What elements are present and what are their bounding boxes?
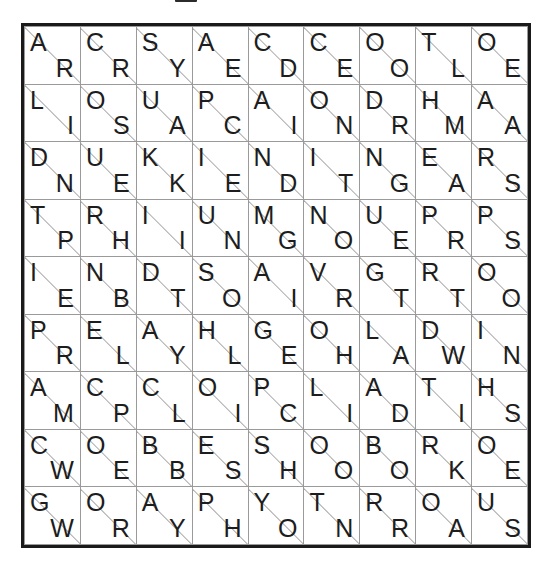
grid-cell[interactable]: AY bbox=[136, 314, 192, 372]
grid-cell[interactable]: PR bbox=[416, 199, 472, 257]
grid-cell[interactable]: YO bbox=[248, 487, 304, 545]
grid-cell[interactable]: OS bbox=[80, 84, 136, 142]
grid-cell[interactable]: HL bbox=[192, 314, 248, 372]
grid-cell[interactable]: EA bbox=[416, 142, 472, 200]
grid-cell[interactable]: OR bbox=[80, 487, 136, 545]
grid-cell[interactable]: NO bbox=[304, 199, 360, 257]
cell-upper-letter: T bbox=[421, 30, 436, 55]
cell-upper-letter: M bbox=[254, 203, 275, 228]
grid-cell[interactable]: IT bbox=[304, 142, 360, 200]
grid-cell[interactable]: II bbox=[136, 199, 192, 257]
grid-cell[interactable]: TN bbox=[304, 487, 360, 545]
grid-cell[interactable]: AR bbox=[25, 27, 81, 85]
grid-cell[interactable]: AY bbox=[136, 487, 192, 545]
grid-cell[interactable]: NG bbox=[360, 142, 416, 200]
grid-cell[interactable]: HS bbox=[472, 372, 528, 430]
grid-cell[interactable]: ES bbox=[192, 429, 248, 487]
cell-inner: TL bbox=[416, 27, 471, 84]
grid-cell[interactable]: DT bbox=[136, 257, 192, 315]
grid-cell[interactable]: PS bbox=[472, 199, 528, 257]
grid-cell[interactable]: RK bbox=[416, 429, 472, 487]
grid-cell[interactable]: SY bbox=[136, 27, 192, 85]
grid-cell[interactable]: OA bbox=[416, 487, 472, 545]
cell-inner: US bbox=[472, 487, 527, 544]
grid-cell[interactable]: RS bbox=[472, 142, 528, 200]
grid-cell[interactable]: ON bbox=[304, 84, 360, 142]
grid-cell[interactable]: UE bbox=[80, 142, 136, 200]
grid-cell[interactable]: MG bbox=[248, 199, 304, 257]
grid-cell[interactable]: BO bbox=[360, 429, 416, 487]
grid-cell[interactable]: OE bbox=[472, 429, 528, 487]
grid-cell[interactable]: AI bbox=[248, 84, 304, 142]
grid-cell[interactable]: TP bbox=[25, 199, 81, 257]
grid-cell[interactable]: SO bbox=[192, 257, 248, 315]
cell-inner: RS bbox=[472, 142, 527, 199]
grid-cell[interactable]: PC bbox=[248, 372, 304, 430]
grid-cell[interactable]: RR bbox=[360, 487, 416, 545]
cell-inner: CD bbox=[249, 27, 304, 84]
grid-cell[interactable]: OO bbox=[360, 27, 416, 85]
grid-cell[interactable]: RH bbox=[80, 199, 136, 257]
grid-cell[interactable]: NB bbox=[80, 257, 136, 315]
grid-cell[interactable]: US bbox=[472, 487, 528, 545]
grid-cell[interactable]: AM bbox=[25, 372, 81, 430]
cell-inner: EA bbox=[416, 142, 471, 199]
grid-cell[interactable]: OO bbox=[304, 429, 360, 487]
grid-cell[interactable]: PH bbox=[192, 487, 248, 545]
grid-cell[interactable]: GT bbox=[360, 257, 416, 315]
cell-inner: AI bbox=[249, 85, 304, 142]
grid-cell[interactable]: LI bbox=[304, 372, 360, 430]
grid-cell[interactable]: AI bbox=[248, 257, 304, 315]
grid-cell[interactable]: OE bbox=[472, 27, 528, 85]
grid-cell[interactable]: AD bbox=[360, 372, 416, 430]
grid-cell[interactable]: CL bbox=[136, 372, 192, 430]
cell-inner: CR bbox=[81, 27, 136, 84]
grid-cell[interactable]: UE bbox=[360, 199, 416, 257]
grid-cell[interactable]: OH bbox=[304, 314, 360, 372]
grid-cell[interactable]: KK bbox=[136, 142, 192, 200]
grid-cell[interactable]: IE bbox=[192, 142, 248, 200]
letter-grid[interactable]: ARCRSYAECDCEOOTLOELIOSUAPCAIONDRHMAADNUE… bbox=[24, 26, 528, 545]
grid-cell[interactable]: AE bbox=[192, 27, 248, 85]
cell-upper-letter: A bbox=[254, 260, 271, 285]
grid-cell[interactable]: HM bbox=[416, 84, 472, 142]
cell-upper-letter: S bbox=[142, 30, 159, 55]
grid-cell[interactable]: IN bbox=[472, 314, 528, 372]
grid-cell[interactable]: AA bbox=[472, 84, 528, 142]
grid-cell[interactable]: DW bbox=[416, 314, 472, 372]
grid-cell[interactable]: TI bbox=[416, 372, 472, 430]
cell-lower-letter: S bbox=[504, 228, 521, 253]
grid-cell[interactable]: ND bbox=[248, 142, 304, 200]
grid-cell[interactable]: LI bbox=[25, 84, 81, 142]
grid-cell[interactable]: PR bbox=[25, 314, 81, 372]
cell-inner: EL bbox=[81, 315, 136, 372]
grid-cell[interactable]: CD bbox=[248, 27, 304, 85]
grid-cell[interactable]: BB bbox=[136, 429, 192, 487]
grid-cell[interactable]: EL bbox=[80, 314, 136, 372]
grid-cell[interactable]: VR bbox=[304, 257, 360, 315]
grid-cell[interactable]: GW bbox=[25, 487, 81, 545]
grid-cell[interactable]: CW bbox=[25, 429, 81, 487]
grid-cell[interactable]: IE bbox=[25, 257, 81, 315]
grid-cell[interactable]: OE bbox=[80, 429, 136, 487]
grid-cell[interactable]: UA bbox=[136, 84, 192, 142]
grid-cell[interactable]: DR bbox=[360, 84, 416, 142]
cell-lower-letter: Y bbox=[169, 56, 186, 81]
cell-lower-letter: L bbox=[228, 343, 242, 368]
grid-cell[interactable]: DN bbox=[25, 142, 81, 200]
grid-cell[interactable]: OO bbox=[472, 257, 528, 315]
cell-inner: PS bbox=[472, 200, 527, 257]
grid-cell[interactable]: CE bbox=[304, 27, 360, 85]
grid-cell[interactable]: CP bbox=[80, 372, 136, 430]
grid-cell[interactable]: UN bbox=[192, 199, 248, 257]
grid-cell[interactable]: LA bbox=[360, 314, 416, 372]
cell-upper-letter: D bbox=[365, 88, 383, 113]
grid-cell[interactable]: SH bbox=[248, 429, 304, 487]
grid-cell[interactable]: TL bbox=[416, 27, 472, 85]
grid-cell[interactable]: GE bbox=[248, 314, 304, 372]
grid-cell[interactable]: OI bbox=[192, 372, 248, 430]
grid-cell[interactable]: CR bbox=[80, 27, 136, 85]
grid-cell[interactable]: PC bbox=[192, 84, 248, 142]
cell-inner: OH bbox=[304, 315, 359, 372]
grid-cell[interactable]: RT bbox=[416, 257, 472, 315]
